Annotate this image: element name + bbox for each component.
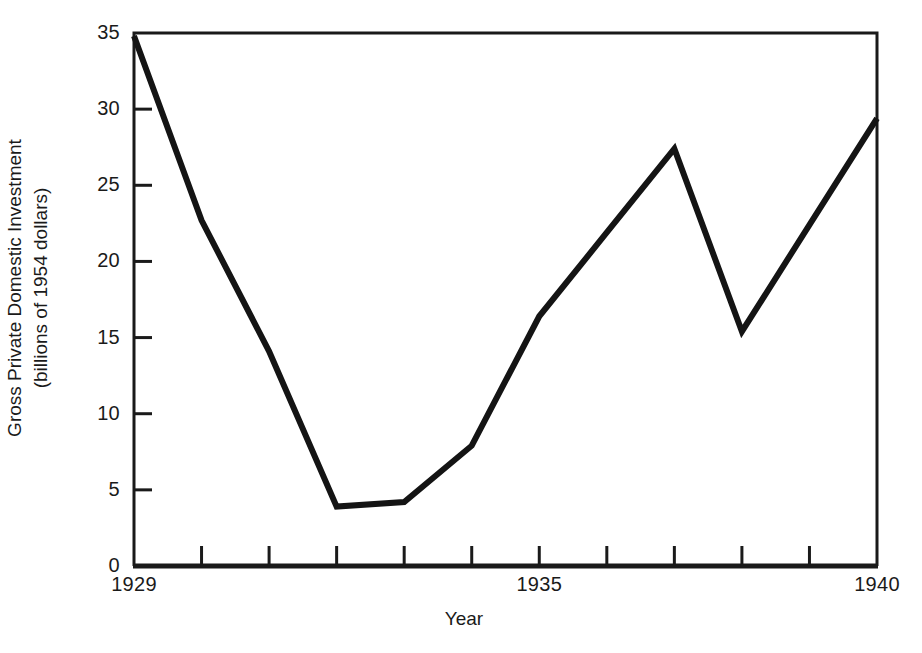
plot-svg: [134, 33, 877, 566]
y-axis-tick-label: 5: [109, 479, 120, 499]
x-axis-tick-label: 1940: [854, 572, 900, 596]
y-axis-tick-label: 25: [97, 174, 120, 194]
y-axis-ticks: [134, 109, 152, 490]
chart-figure: Gross Private Domestic Investment (billi…: [0, 0, 922, 653]
y-axis-tick-label: 20: [97, 250, 120, 270]
x-axis-tick-label: 1935: [516, 572, 562, 596]
x-axis-tick-label: 1929: [111, 572, 157, 596]
data-series-line: [134, 36, 877, 507]
y-axis-tick-label: 30: [97, 98, 120, 118]
y-axis-tick-label: 35: [97, 22, 120, 42]
plot-area: [134, 33, 877, 566]
x-axis-tick-labels: 192919351940: [0, 572, 922, 602]
x-axis-title: Year: [0, 608, 922, 630]
y-axis-tick-label: 15: [97, 327, 120, 347]
y-axis-tick-labels: 05101520253035: [0, 0, 134, 653]
x-axis-ticks: [202, 546, 810, 566]
x-axis-title-text: Year: [445, 608, 483, 629]
y-axis-tick-label: 10: [97, 403, 120, 423]
